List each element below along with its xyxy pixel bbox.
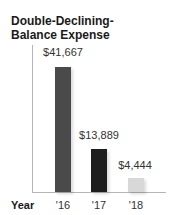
x-tick-2018: '18 — [121, 199, 151, 211]
bar-value-label-2016: $41,667 — [33, 46, 93, 58]
x-tick-2017: '17 — [84, 199, 114, 211]
bar-value-label-2017: $13,889 — [69, 129, 129, 141]
x-axis-line — [32, 192, 166, 193]
chart-title: Double-Declining- Balance Expense — [11, 14, 114, 42]
y-axis-line — [32, 45, 33, 192]
x-tick-2016: '16 — [48, 199, 78, 211]
chart-title-line-1: Double-Declining- — [11, 14, 114, 28]
chart-title-line-2: Balance Expense — [11, 28, 114, 42]
x-axis-label: Year — [11, 199, 34, 211]
bar-value-label-2018: $4,444 — [105, 159, 165, 171]
bar-2018 — [128, 178, 144, 192]
